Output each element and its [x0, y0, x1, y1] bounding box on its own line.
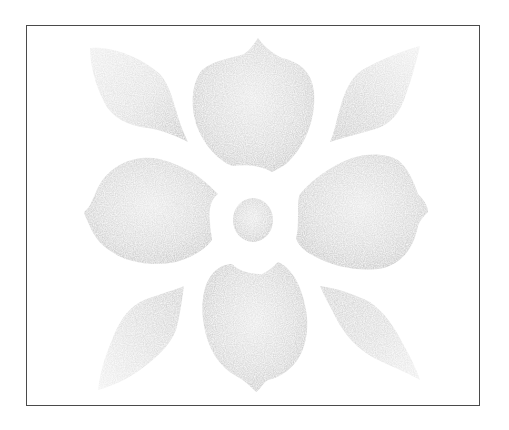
leaf-top-left	[90, 48, 188, 142]
petal-bottom	[202, 262, 307, 392]
stencil-artwork: Stencil flower motif	[0, 0, 509, 430]
center-circle	[233, 198, 273, 242]
flower-motif	[0, 0, 509, 430]
leaf-bottom-right	[320, 286, 420, 380]
leaf-top-right	[330, 46, 420, 142]
petal-left	[84, 158, 218, 264]
petal-top	[193, 38, 315, 172]
leaf-bottom-left	[98, 286, 184, 390]
petal-right	[296, 154, 428, 269]
